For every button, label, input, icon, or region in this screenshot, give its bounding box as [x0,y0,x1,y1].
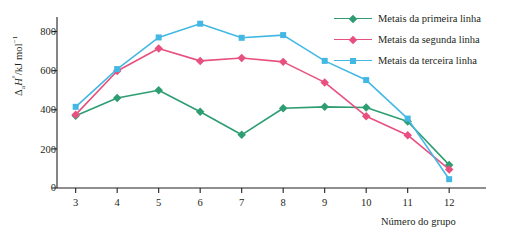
x-axis-label: Número do grupo [381,216,456,227]
legend-label: Metais da primeira linha [372,13,481,24]
legend-item-first-row: Metais da primeira linha [334,8,508,29]
legend-item-second-row: Metais da segunda linha [334,29,508,50]
legend-swatch-icon [334,13,372,25]
x-tick-label: 12 [437,197,461,208]
legend: Metais da primeira linha Metais da segun… [334,8,508,71]
x-tick-label: 10 [354,197,378,208]
chart-figure: ΔaH°/kJ mol−1 800 600 400 200 0 34567891… [0,0,508,236]
x-tick-label: 6 [188,197,212,208]
legend-swatch-icon [334,55,372,67]
x-tick-label: 4 [105,197,129,208]
diamond-marker-icon [349,35,357,43]
x-tick-label: 8 [271,197,295,208]
x-tick-label: 9 [313,197,337,208]
x-tick-label: 11 [396,197,420,208]
x-tick-label: 7 [230,197,254,208]
legend-label: Metais da segunda linha [372,34,480,45]
legend-swatch-icon [334,34,372,46]
x-tick-label: 3 [64,197,88,208]
legend-item-third-row: Metais da terceira linha [334,50,508,71]
diamond-marker-icon [349,14,357,22]
legend-label: Metais da terceira linha [372,55,477,66]
x-tick-label: 5 [147,197,171,208]
square-marker-icon [350,58,356,64]
